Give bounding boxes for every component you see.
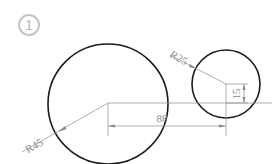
figure-number: 1 [25,17,33,33]
radius-r25-label: R25 [168,48,190,68]
technical-drawing: 1 88 15 R25 R45 [0,0,276,164]
dimension-15-label: 15 [230,88,242,100]
dimension-88-label: 88 [157,112,169,124]
figure-number-badge: 1 [19,15,39,35]
radius-r45-label: R45 [23,136,45,156]
arrowheads [58,64,246,132]
